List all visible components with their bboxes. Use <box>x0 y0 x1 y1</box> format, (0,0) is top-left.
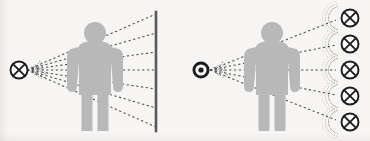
fan-dot <box>223 76 224 77</box>
arc-dot <box>325 15 326 16</box>
arc-dot <box>334 111 335 112</box>
target-convergence-arcs <box>322 1 338 35</box>
arc-dot <box>323 101 324 102</box>
bullseye-light-source <box>193 62 210 79</box>
fan-dot <box>41 67 42 68</box>
arc-dot <box>331 81 332 82</box>
person-head <box>84 22 106 44</box>
arc-dot <box>334 31 335 32</box>
arc-dot <box>325 98 326 99</box>
arc-dot <box>327 103 328 104</box>
arc-dot <box>336 28 337 29</box>
arc-dot <box>336 110 337 111</box>
arc-dot <box>323 117 324 118</box>
arc-dot <box>336 136 337 137</box>
fan-dot <box>37 65 38 66</box>
person-leg-left <box>259 94 270 131</box>
arc-dot <box>330 11 331 12</box>
arc-dot <box>327 5 328 6</box>
arc-dot <box>329 56 330 57</box>
arc-dot <box>328 17 329 18</box>
optics-diagram <box>0 0 370 141</box>
arc-dot <box>335 138 336 139</box>
target-light-sources <box>342 114 359 131</box>
arc-dot <box>322 97 323 98</box>
arc-dot <box>334 59 335 60</box>
fan-dot <box>33 71 34 72</box>
arc-dot <box>328 67 329 68</box>
arc-dot <box>326 12 327 13</box>
arc-dot <box>328 18 329 19</box>
arc-dot <box>327 77 328 78</box>
arc-dot <box>333 60 334 61</box>
fan-dot <box>34 71 35 72</box>
fan-dot <box>225 73 226 74</box>
arc-dot <box>329 31 330 32</box>
diagram-canvas <box>0 0 370 141</box>
arc-dot <box>328 87 329 88</box>
fan-dot <box>43 72 44 73</box>
fan-dot <box>44 71 45 72</box>
arc-dot <box>334 7 335 8</box>
fan-dot <box>215 67 216 68</box>
arc-dot <box>333 105 334 106</box>
fan-dot <box>217 69 218 70</box>
fan-dot <box>43 69 44 70</box>
fan-dot <box>220 73 221 74</box>
fan-dot <box>217 65 218 66</box>
person-leg-left <box>82 94 93 131</box>
arc-dot <box>328 44 329 45</box>
arc-dot <box>331 88 332 89</box>
arc-dot <box>326 116 327 117</box>
arc-dot <box>331 110 332 111</box>
arc-dot <box>330 76 331 77</box>
arc-dot <box>326 106 327 107</box>
fan-dot <box>224 68 225 69</box>
arc-dot <box>325 20 326 21</box>
person-leg-right <box>98 94 109 131</box>
fan-dot <box>40 70 41 71</box>
fan-dot <box>216 73 217 74</box>
arc-dot <box>327 108 328 109</box>
arc-dot <box>333 106 334 107</box>
arc-dot <box>326 22 327 23</box>
arc-dot <box>323 13 324 14</box>
arc-dot <box>328 35 329 36</box>
person-leg-right <box>275 94 286 131</box>
arc-dot <box>327 36 328 37</box>
arc-dot <box>322 123 323 124</box>
arc-dot <box>329 99 330 100</box>
arc-dot <box>331 84 332 85</box>
point-light-source <box>11 62 28 79</box>
fan-dot <box>218 74 219 75</box>
arc-dot <box>333 30 334 31</box>
arc-dot <box>324 129 325 130</box>
arc-dot <box>328 41 329 42</box>
arc-dot <box>333 134 334 135</box>
fan-dot <box>222 66 223 67</box>
arc-dot <box>322 67 323 68</box>
arc-dot <box>331 51 332 52</box>
arc-dot <box>331 32 332 33</box>
arc-dot <box>331 29 332 30</box>
arc-dot <box>336 80 337 81</box>
target-light-sources <box>342 10 359 27</box>
arc-dot <box>334 4 335 5</box>
arc-dot <box>329 65 330 66</box>
arc-dot <box>331 114 332 115</box>
arc-dot <box>326 102 327 103</box>
arc-dot <box>335 60 336 61</box>
arc-dot <box>334 83 335 84</box>
arc-dot <box>329 125 330 126</box>
human-figure-silhouette <box>67 22 123 131</box>
arc-dot <box>328 9 329 10</box>
fan-dot <box>222 72 223 73</box>
arc-dot <box>329 108 330 109</box>
fan-dot <box>36 67 37 68</box>
target-convergence-arcs <box>322 27 338 61</box>
arc-dot <box>322 43 323 44</box>
arc-dot <box>325 17 326 18</box>
arc-dot <box>335 86 336 87</box>
arc-dot <box>332 113 333 114</box>
arc-dot <box>331 62 332 63</box>
